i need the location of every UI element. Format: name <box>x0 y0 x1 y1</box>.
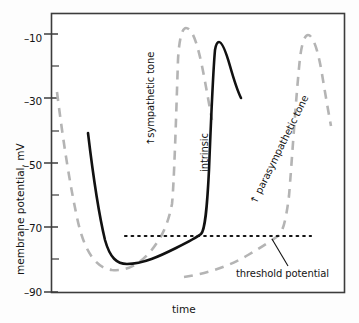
y-tick-label-minus50: –50 <box>8 159 42 171</box>
y-tick-label-minus30: –30 <box>8 95 42 107</box>
intrinsic-label: intrinsic <box>199 133 210 172</box>
sympathetic-tone-label: ↑sympathetic tone <box>145 52 156 146</box>
y-tick-label-minus90: –90 <box>8 286 42 298</box>
threshold-potential-label: threshold potential <box>236 268 329 279</box>
y-tick-label-minus70: –70 <box>8 222 42 234</box>
x-axis-title: time <box>172 303 196 315</box>
y-tick-label-minus10: –10 <box>8 32 42 44</box>
membrane-potential-chart: membrane potential, mV time ↑sympathetic… <box>0 0 359 323</box>
plot-frame <box>52 14 345 293</box>
